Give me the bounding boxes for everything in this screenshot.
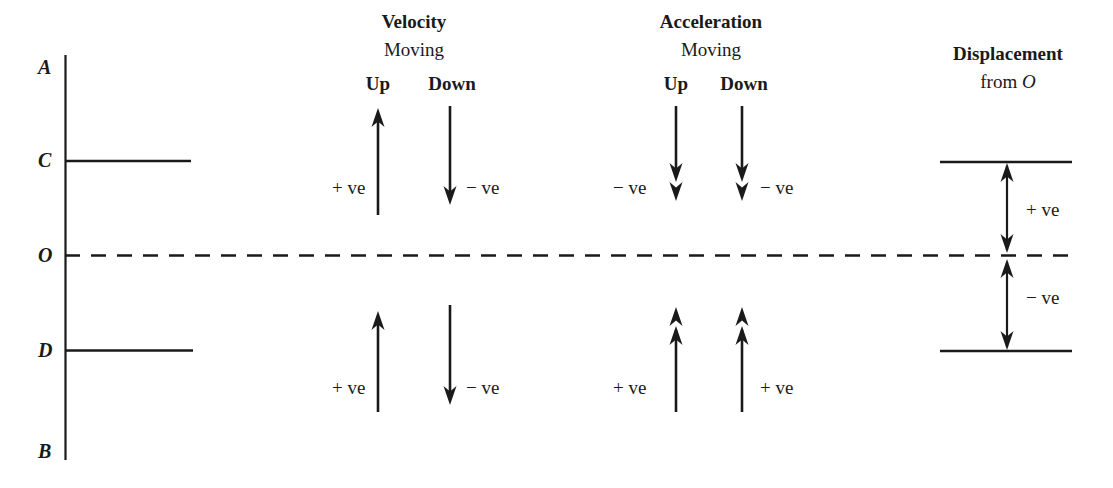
acceleration-column-title: Acceleration xyxy=(660,12,762,31)
velocity-up-header: Up xyxy=(366,74,390,93)
velocity-column-title: Velocity xyxy=(382,12,447,31)
acceleration-up-upper-arrow xyxy=(670,106,683,201)
acceleration-column-subtitle: Moving xyxy=(681,40,741,59)
velocity-down-lower-sign: − ve xyxy=(466,378,499,397)
acceleration-down-upper-arrow xyxy=(736,106,749,201)
displacement-column-title: Displacement xyxy=(953,44,1063,63)
displacement-negative-arrow xyxy=(1001,259,1014,350)
displacement-positive-sign: + ve xyxy=(1026,200,1059,219)
acceleration-up-lower-arrow xyxy=(670,307,683,412)
acceleration-down-lower-arrow xyxy=(736,307,749,412)
acceleration-up-lower-sign: + ve xyxy=(613,378,646,397)
displacement-positive-arrow xyxy=(1001,163,1014,253)
axis-label-B: B xyxy=(38,441,51,461)
axis-label-C: C xyxy=(38,150,51,170)
acceleration-down-lower-sign: + ve xyxy=(760,378,793,397)
acceleration-up-upper-sign: − ve xyxy=(613,178,646,197)
displacement-negative-sign: − ve xyxy=(1026,288,1059,307)
acceleration-down-header: Down xyxy=(720,74,768,93)
acceleration-down-upper-sign: − ve xyxy=(760,178,793,197)
displacement-column-subtitle: from O xyxy=(980,72,1035,91)
velocity-up-upper-sign: + ve xyxy=(332,178,365,197)
velocity-up-upper-arrow xyxy=(372,108,385,215)
diagram-vector-layer xyxy=(0,0,1113,488)
velocity-up-lower-arrow xyxy=(372,311,385,412)
axis-label-D: D xyxy=(38,340,52,360)
figure-canvas: A C O D B Velocity Moving Up Down Accele… xyxy=(0,0,1113,488)
displacement-subtitle-text: from xyxy=(980,71,1022,92)
velocity-column-subtitle: Moving xyxy=(384,40,444,59)
velocity-down-header: Down xyxy=(428,74,476,93)
velocity-up-lower-sign: + ve xyxy=(332,378,365,397)
acceleration-up-header: Up xyxy=(664,74,688,93)
velocity-down-upper-arrow xyxy=(444,106,457,205)
axis-label-A: A xyxy=(38,57,51,77)
velocity-down-lower-arrow xyxy=(444,305,457,405)
axis-label-O: O xyxy=(38,245,52,265)
velocity-down-upper-sign: − ve xyxy=(466,178,499,197)
displacement-subtitle-origin: O xyxy=(1022,71,1036,92)
